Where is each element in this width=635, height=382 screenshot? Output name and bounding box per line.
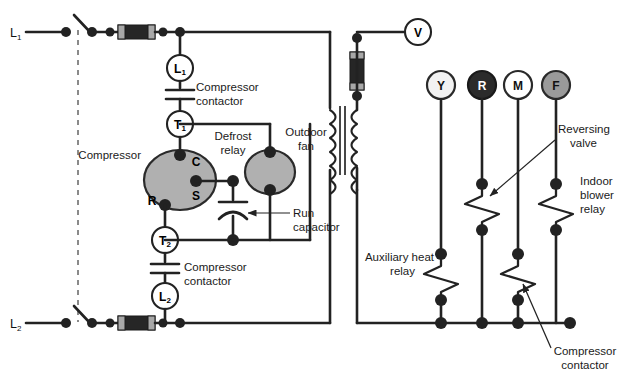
junction-node-icon: [512, 248, 524, 260]
fuse-icon: [118, 25, 155, 39]
capacitor-icon: [166, 90, 194, 99]
auxiliary-heat-relay-leg: [424, 99, 458, 329]
junction-node-icon: [550, 178, 562, 190]
rail-label-l1: L1: [10, 26, 22, 42]
transformer-icon: [330, 96, 357, 194]
thermostat-terminal-f-label: F: [552, 79, 559, 93]
auxiliary-heat-relay-label-line1: Auxiliary heat: [365, 251, 435, 263]
thermostat-terminals: Y R M F: [427, 71, 570, 99]
reversing-valve-leader: [490, 140, 555, 196]
thermostat-terminal-y-label: Y: [437, 79, 445, 93]
thermostat-terminal-r-label: R: [478, 79, 487, 93]
thermostat-terminal-m-label: M: [513, 79, 523, 93]
control-fuse-and-voltmeter: V: [350, 19, 431, 101]
control-bus: [357, 52, 572, 323]
rail-label-l2: L2: [10, 317, 22, 333]
compressor-contactor-bottom-label-line1: Compressor: [184, 261, 247, 273]
defrost-relay-label-line2: relay: [221, 144, 246, 156]
junction-node-icon: [61, 318, 71, 328]
junction-node-icon: [61, 27, 71, 37]
capacitor-icon: [151, 264, 179, 273]
compressor-terminal-s-label: S: [192, 189, 200, 203]
indoor-blower-relay-label-line3: relay: [580, 203, 605, 215]
compressor-contactor-low-label-line1: Compressor: [554, 345, 617, 357]
outdoor-fan-motor: [245, 146, 295, 240]
reversing-valve-label-line1: Reversing: [558, 123, 610, 135]
compressor-terminal-c-label: C: [192, 155, 201, 169]
schematic-canvas: C S R: [0, 0, 635, 382]
compressor-contactor-low-label-line2: contactor: [561, 359, 608, 371]
outdoor-fan-label-line2: fan: [298, 140, 314, 152]
relay-coil-icon: [539, 190, 573, 228]
run-capacitor-label-line2: capacitor: [293, 221, 340, 233]
compressor-contactor-leader: [523, 284, 551, 348]
junction-node-icon: [476, 317, 488, 329]
relay-coil-icon: [424, 260, 458, 298]
compressor-contactor-relay-leg: [501, 99, 535, 329]
relay-coil-icon: [501, 260, 535, 298]
compressor-terminal-r-label: R: [148, 194, 157, 208]
indoor-blower-relay-label-line2: blower: [580, 189, 614, 201]
compressor-terminal-c-node: [174, 149, 186, 161]
reversing-valve-relay-leg: [465, 99, 499, 329]
disconnect-switch-icon[interactable]: [74, 306, 90, 323]
junction-node-icon: [512, 317, 524, 329]
reversing-valve-label-line2: valve: [570, 137, 597, 149]
junction-node-icon: [435, 317, 447, 329]
disconnect-switch-icon[interactable]: [74, 15, 90, 32]
defrost-relay-label-line1: Defrost: [214, 130, 252, 142]
arrow-icon: [490, 140, 555, 196]
indoor-blower-relay-label-line1: Indoor: [580, 175, 613, 187]
junction-node-icon: [435, 248, 447, 260]
compressor-contactor-top-label-line2: contactor: [196, 95, 243, 107]
run-capacitor-label-line1: Run: [293, 207, 314, 219]
compressor-contactor-top-label-line1: Compressor: [196, 81, 259, 93]
junction-node-icon: [564, 317, 576, 329]
junction-node-icon: [352, 33, 362, 43]
voltmeter-label: V: [414, 26, 422, 40]
junction-node-icon: [476, 178, 488, 190]
outdoor-fan-label-line1: Outdoor: [285, 126, 327, 138]
heat-pump-wiring-diagram: C S R: [0, 0, 635, 382]
compressor-contactor-bottom-label-line2: contactor: [184, 275, 231, 287]
outdoor-fan-terminal-top: [264, 146, 276, 158]
auxiliary-heat-relay-label-line2: relay: [390, 265, 415, 277]
compressor-label: Compressor: [78, 149, 141, 161]
arrow-icon: [523, 284, 551, 348]
fuse-icon: [118, 316, 155, 330]
relay-coil-icon: [465, 190, 499, 228]
